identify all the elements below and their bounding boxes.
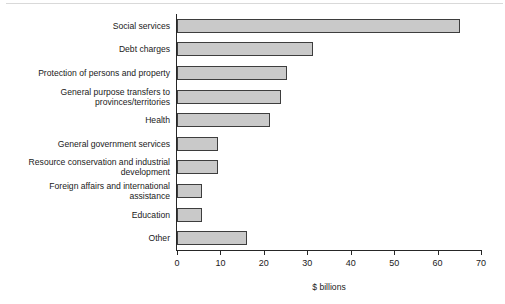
x-axis-tick: [394, 250, 395, 255]
x-axis-tick: [177, 250, 178, 255]
category-label-column: Social servicesDebt chargesProtection of…: [4, 14, 174, 250]
page-top-rule: [6, 3, 503, 4]
category-label: Social services: [4, 21, 170, 31]
category-label: Health: [4, 115, 170, 125]
x-axis-line: [176, 250, 482, 251]
bar: [177, 184, 202, 198]
bar: [177, 208, 202, 222]
bar-chart-figure: Social servicesDebt chargesProtection of…: [0, 0, 505, 304]
bar: [177, 66, 287, 80]
category-label: Protection of persons and property: [4, 68, 170, 78]
x-axis-tick-label: 50: [379, 258, 409, 268]
category-label: Foreign affairs and international assist…: [4, 181, 170, 201]
x-axis-tick: [438, 250, 439, 255]
x-axis-tick-label: 10: [205, 258, 235, 268]
x-axis-tick-label: 20: [249, 258, 279, 268]
bar: [177, 19, 460, 33]
category-label: Resource conservation and industrial dev…: [4, 157, 170, 177]
x-axis-tick: [264, 250, 265, 255]
category-label: Debt charges: [4, 44, 170, 54]
category-label: Other: [4, 233, 170, 243]
x-axis-tick-label: 0: [162, 258, 192, 268]
x-axis-tick: [307, 250, 308, 255]
x-axis-tick-label: 60: [423, 258, 453, 268]
category-label: General government services: [4, 139, 170, 149]
x-axis-tick: [351, 250, 352, 255]
x-axis-tick: [220, 250, 221, 255]
plot-area: 010203040506070: [177, 14, 481, 250]
bar: [177, 113, 270, 127]
x-axis-tick: [481, 250, 482, 255]
bar: [177, 160, 218, 174]
x-axis-tick-label: 40: [336, 258, 366, 268]
x-axis-tick-label: 30: [292, 258, 322, 268]
category-label: Education: [4, 210, 170, 220]
category-label: General purpose transfers to provinces/t…: [4, 87, 170, 107]
x-axis-title: $ billions: [177, 282, 481, 292]
bar: [177, 90, 281, 104]
bar: [177, 137, 218, 151]
x-axis-tick-label: 70: [466, 258, 496, 268]
bar: [177, 42, 313, 56]
bar: [177, 231, 247, 245]
